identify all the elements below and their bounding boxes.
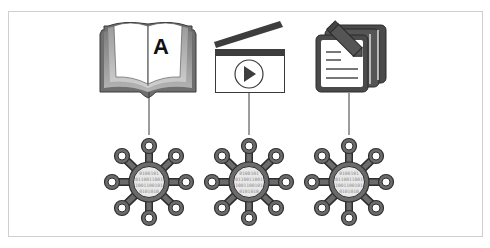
svg-text:0110011001: 0110011001	[135, 177, 163, 182]
documents-pencil-icon	[316, 21, 386, 92]
clapperboard-play-icon	[214, 21, 285, 93]
svg-text:1001100101: 1001100101	[135, 183, 163, 188]
svg-text:0110011001: 0110011001	[235, 177, 263, 182]
book-letter-glyph: A	[153, 34, 169, 59]
svg-text:0101010: 0101010	[239, 189, 259, 194]
svg-text:0101010: 0101010	[139, 189, 159, 194]
svg-text:0100101: 0100101	[139, 171, 159, 176]
svg-text:0100101: 0100101	[239, 171, 259, 176]
svg-text:0110011001: 0110011001	[335, 177, 363, 182]
svg-text:1001100101: 1001100101	[235, 183, 263, 188]
svg-text:1001100101: 1001100101	[335, 183, 363, 188]
data-hub-document: 0100101 0110011001 1001100101 0101010	[305, 139, 394, 226]
open-book-icon	[100, 22, 196, 98]
svg-text:0100101: 0100101	[339, 171, 359, 176]
diagram-canvas: A	[0, 0, 490, 248]
svg-text:0101010: 0101010	[339, 189, 359, 194]
connectors	[149, 92, 349, 135]
data-hub-book: 0100101 0110011001 1001100101 0101010	[105, 139, 194, 226]
data-hub-video: 0100101 0110011001 1001100101 0101010	[205, 139, 294, 226]
